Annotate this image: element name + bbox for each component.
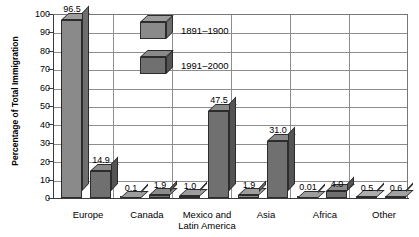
bar-face (149, 195, 170, 199)
legend-swatch-1891-1900 (140, 22, 166, 39)
legend-swatch-1991-2000 (140, 57, 166, 74)
x-axis-label-line: Other (349, 209, 419, 220)
immigration-bar-chart: Percentage of Total Immigration 100 90 8… (0, 0, 419, 237)
bar-africa-1991-2000 (326, 191, 347, 198)
bar-face (238, 195, 259, 199)
value-label-asia-1891-1900: 1.9 (229, 180, 269, 190)
bar-canada-1991-2000 (149, 195, 170, 199)
bar-other-1991-2000 (385, 197, 406, 198)
value-label-europe-1991-2000: 14.9 (81, 155, 121, 165)
bar-europe-1891-1900 (61, 20, 82, 198)
y-axis-tick-labels: 100 90 80 70 60 50 40 30 20 10 0 (24, 0, 50, 237)
legend-label-1991-2000: 1991–2000 (181, 60, 229, 71)
bar-side-face (229, 97, 236, 191)
bar-face (90, 171, 111, 198)
value-label-europe-1891-1900: 96.5 (52, 4, 92, 14)
bar-face (208, 111, 229, 198)
legend-label-1891-1900: 1891–1900 (181, 25, 229, 36)
gridline-cat-5 (349, 15, 350, 198)
bar-mexico-latin-america-1991-2000 (208, 111, 229, 198)
bar-face (179, 196, 200, 198)
bar-asia-1991-2000 (267, 141, 288, 198)
bar-face (326, 191, 347, 198)
value-label-mexico-latin-america-1991-2000: 47.5 (199, 95, 239, 105)
x-axis-label-other: Other (349, 209, 419, 220)
x-axis-label-line: Latin America (171, 220, 243, 231)
legend-swatch-face (140, 22, 166, 39)
bar-europe-1991-2000 (90, 171, 111, 198)
bar-asia-1891-1900 (238, 195, 259, 199)
value-label-mexico-latin-america-1891-1900: 1.0 (170, 181, 210, 191)
bar-face (61, 20, 82, 198)
value-label-other-1991-2000: 0.6 (376, 183, 416, 193)
bar-mexico-latin-america-1891-1900 (179, 196, 200, 198)
x-axis-baseline (53, 198, 409, 199)
value-label-asia-1991-2000: 31.0 (258, 125, 298, 135)
legend-swatch-face (140, 57, 166, 74)
gridline-cat-2 (172, 15, 173, 198)
bar-other-1891-1900 (356, 197, 377, 198)
bar-face (267, 141, 288, 198)
y-axis-title: Percentage of Total Immigration (10, 8, 20, 194)
